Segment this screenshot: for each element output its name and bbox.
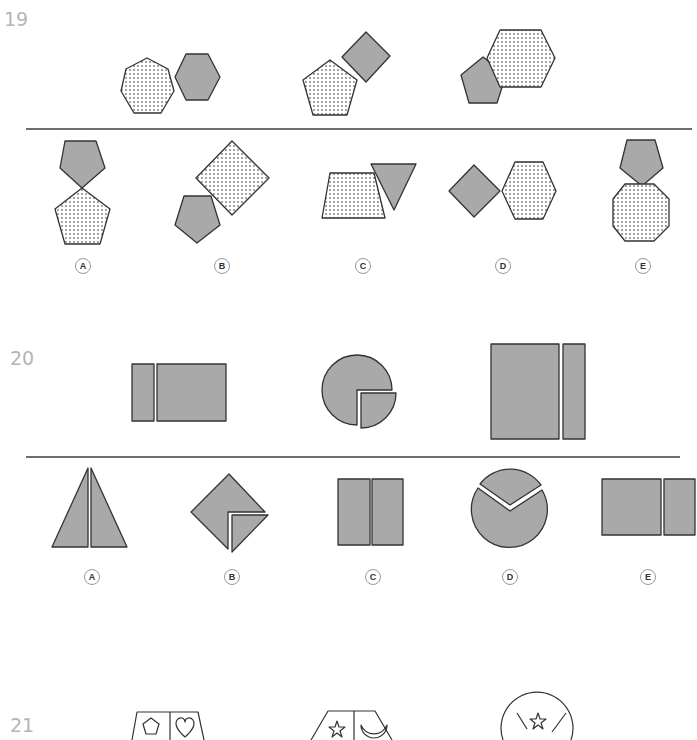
q20-option-c-figure	[338, 479, 403, 545]
q19-option-c-figure	[322, 164, 416, 218]
q21-prompt-2	[311, 711, 392, 740]
q19-option-e-figure	[613, 140, 669, 241]
q19-option-b[interactable]: B	[214, 258, 230, 274]
figures-canvas	[0, 0, 697, 740]
q20-option-a[interactable]: A	[84, 569, 100, 585]
q19-prompt-2	[303, 32, 390, 115]
q19-option-a-figure	[55, 141, 110, 244]
q20-prompt-3	[491, 344, 585, 439]
q20-option-d[interactable]: D	[502, 569, 518, 585]
q19-option-d-figure	[449, 162, 556, 219]
q20-option-d-figure	[471, 469, 547, 547]
q19-prompt-1	[121, 54, 220, 113]
q20-prompt-2	[322, 355, 396, 428]
q20-option-e[interactable]: E	[640, 569, 656, 585]
q19-option-a[interactable]: A	[75, 258, 91, 274]
q20-prompt-1	[132, 364, 226, 421]
q19-option-e[interactable]: E	[635, 258, 651, 274]
q20-option-c[interactable]: C	[365, 569, 381, 585]
q20-option-b[interactable]: B	[224, 569, 240, 585]
q19-option-b-figure	[175, 141, 269, 243]
q21-prompt-1	[132, 712, 204, 740]
q19-option-d[interactable]: D	[495, 258, 511, 274]
q21-prompt-3	[501, 692, 573, 740]
q20-option-e-figure	[602, 479, 695, 535]
q20-option-b-figure	[191, 474, 268, 552]
q20-option-a-figure	[52, 468, 127, 547]
q19-option-c[interactable]: C	[355, 258, 371, 274]
q19-prompt-3	[461, 30, 555, 103]
